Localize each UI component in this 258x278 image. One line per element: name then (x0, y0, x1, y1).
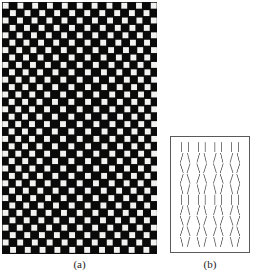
panel-b-caption: (b) (170, 258, 250, 270)
panel-a (2, 2, 157, 254)
panel-b (170, 136, 250, 253)
tilted-segment-array-image (171, 137, 249, 252)
figure-root: (a) (b) (0, 0, 258, 278)
panel-a-caption: (a) (2, 258, 157, 270)
distorted-checkerboard-image (2, 2, 157, 254)
